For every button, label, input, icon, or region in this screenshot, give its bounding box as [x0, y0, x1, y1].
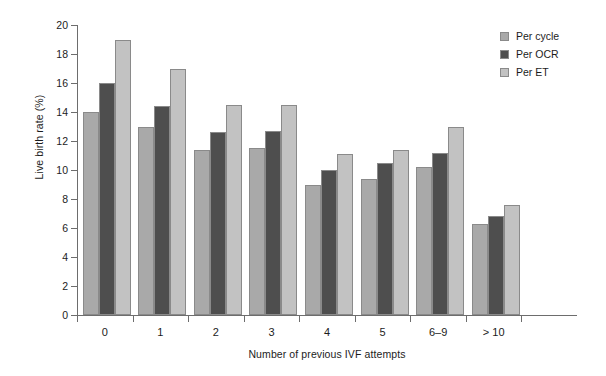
bar [265, 131, 281, 315]
y-axis-tick-label: 0 [28, 309, 68, 321]
bar [138, 127, 154, 316]
legend-swatch-icon [500, 50, 509, 59]
x-axis-tick-label: 0 [75, 326, 135, 338]
y-axis-tick-label: 4 [28, 251, 68, 263]
legend-item: Per cycle [500, 28, 559, 44]
bar [416, 167, 432, 315]
y-axis-tick-label: 16 [28, 77, 68, 89]
x-axis-tick [299, 316, 300, 322]
bar [305, 185, 321, 316]
legend-label: Per OCR [516, 48, 559, 60]
bar [210, 132, 226, 315]
bar [115, 40, 131, 316]
bar [321, 170, 337, 315]
bar [361, 179, 377, 315]
x-axis-tick [466, 316, 467, 322]
y-axis-tick [71, 228, 77, 229]
bar [83, 112, 99, 315]
bar [393, 150, 409, 315]
bar [226, 105, 242, 315]
y-axis-tick-labels: 20181614121086420 [24, 0, 68, 376]
y-axis-tick-label: 6 [28, 222, 68, 234]
y-axis-tick-label: 8 [28, 193, 68, 205]
bar [99, 83, 115, 315]
x-axis-tick [355, 316, 356, 322]
bar [472, 224, 488, 315]
x-axis-title: Number of previous IVF attempts [77, 348, 577, 360]
y-axis-tick [71, 54, 77, 55]
x-axis-tick-label: 2 [186, 326, 246, 338]
x-axis-tick [410, 316, 411, 322]
x-axis-tick [77, 316, 78, 322]
y-axis-tick [71, 112, 77, 113]
bar-group [416, 25, 464, 315]
y-axis-tick-label: 2 [28, 280, 68, 292]
y-axis-tick-label: 18 [28, 48, 68, 60]
x-axis-tick-label: > 10 [464, 326, 524, 338]
bar-group [83, 25, 131, 315]
x-axis-tick [188, 316, 189, 322]
bar [448, 127, 464, 316]
bar [337, 154, 353, 315]
y-axis-tick [71, 199, 77, 200]
x-axis-tick-label: 5 [353, 326, 413, 338]
y-axis-tick-label: 10 [28, 164, 68, 176]
bar [154, 106, 170, 315]
y-axis-tick-label: 20 [28, 19, 68, 31]
bar [488, 216, 504, 315]
x-axis-line [77, 315, 577, 316]
bar-chart-figure: Live birth rate (%) 20181614121086420 Nu… [0, 0, 606, 376]
bar [170, 69, 186, 316]
bar [377, 163, 393, 315]
y-axis-tick [71, 170, 77, 171]
y-axis-tick-label: 12 [28, 135, 68, 147]
y-axis-tick [71, 257, 77, 258]
x-axis-tick [244, 316, 245, 322]
bar [194, 150, 210, 315]
bar-group [249, 25, 297, 315]
y-axis-tick [71, 25, 77, 26]
x-axis-tick [133, 316, 134, 322]
y-axis-tick [71, 83, 77, 84]
legend-label: Per cycle [516, 30, 559, 42]
legend-item: Per OCR [500, 46, 559, 62]
x-axis-tick-label: 3 [241, 326, 301, 338]
legend-label: Per ET [516, 66, 549, 78]
x-axis-tick-label: 4 [297, 326, 357, 338]
x-axis-tick-label: 6–9 [408, 326, 468, 338]
x-axis-tick [521, 316, 522, 322]
bar [281, 105, 297, 315]
x-axis-tick-label: 1 [130, 326, 190, 338]
chart-legend: Per cyclePer OCRPer ET [500, 28, 559, 82]
y-axis-tick-label: 14 [28, 106, 68, 118]
y-axis-tick [71, 141, 77, 142]
bar-group [361, 25, 409, 315]
bar-group [194, 25, 242, 315]
legend-item: Per ET [500, 64, 559, 80]
bar [249, 148, 265, 315]
legend-swatch-icon [500, 68, 509, 77]
bar [504, 205, 520, 315]
bar-group [305, 25, 353, 315]
y-axis-tick [71, 286, 77, 287]
bar-group [138, 25, 186, 315]
bar [432, 153, 448, 315]
legend-swatch-icon [500, 32, 509, 41]
